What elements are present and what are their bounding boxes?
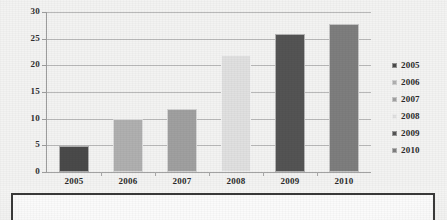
legend-label: 2007 xyxy=(401,95,420,104)
x-tick-label: 2009 xyxy=(263,176,317,186)
legend-label: 2010 xyxy=(401,146,420,155)
bar-2005 xyxy=(59,146,88,172)
y-tick-label: 0 xyxy=(4,167,40,176)
bar-2008 xyxy=(221,55,250,172)
lower-empty-box xyxy=(11,193,435,220)
gridline xyxy=(47,65,371,66)
gridline xyxy=(47,119,371,120)
legend-swatch-icon xyxy=(392,114,397,119)
bar-2006 xyxy=(113,119,142,172)
legend-swatch-icon xyxy=(392,63,397,68)
gridline xyxy=(47,39,371,40)
y-axis-labels: 051015202530 xyxy=(0,0,40,186)
bar-2010 xyxy=(329,24,358,172)
x-tick-label: 2008 xyxy=(209,176,263,186)
legend-label: 2008 xyxy=(401,112,420,121)
legend-item-2005: 2005 xyxy=(392,57,444,74)
legend-swatch-icon xyxy=(392,97,397,102)
y-tick-label: 5 xyxy=(4,140,40,149)
legend-swatch-icon xyxy=(392,131,397,136)
bar-2009 xyxy=(275,34,304,172)
x-tick-label: 2005 xyxy=(47,176,101,186)
y-tick-label: 30 xyxy=(4,7,40,16)
y-tick-label: 25 xyxy=(4,34,40,43)
plot-area xyxy=(47,12,371,172)
legend-item-2010: 2010 xyxy=(392,142,444,159)
y-tick-label: 20 xyxy=(4,60,40,69)
y-tick-label: 15 xyxy=(4,87,40,96)
x-tick-label: 2006 xyxy=(101,176,155,186)
legend-item-2006: 2006 xyxy=(392,74,444,91)
chart-legend: 200520062007200820092010 xyxy=(392,57,444,159)
x-tick-label: 2010 xyxy=(317,176,371,186)
y-tick-label: 10 xyxy=(4,114,40,123)
gridline xyxy=(47,12,371,13)
legend-label: 2006 xyxy=(401,78,420,87)
x-tick-label: 2007 xyxy=(155,176,209,186)
legend-label: 2009 xyxy=(401,129,420,138)
gridline xyxy=(47,92,371,93)
gridline xyxy=(47,145,371,146)
legend-item-2008: 2008 xyxy=(392,108,444,125)
legend-label: 2005 xyxy=(401,61,420,70)
legend-swatch-icon xyxy=(392,80,397,85)
bar-chart-figure: 051015202530 200520062007200820092010 20… xyxy=(0,0,447,186)
bar-2007 xyxy=(167,109,196,172)
legend-item-2007: 2007 xyxy=(392,91,444,108)
x-axis-labels: 200520062007200820092010 xyxy=(47,176,371,190)
scanned-page: 051015202530 200520062007200820092010 20… xyxy=(0,0,447,220)
legend-item-2009: 2009 xyxy=(392,125,444,142)
legend-swatch-icon xyxy=(392,148,397,153)
